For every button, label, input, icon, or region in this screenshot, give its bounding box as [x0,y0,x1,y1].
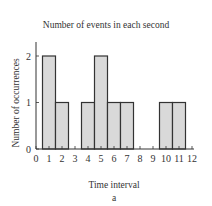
bar-6 [108,103,121,150]
bar-10 [160,103,173,150]
y-tick-label: 2 [26,51,31,62]
x-tick-label: 3 [73,153,78,164]
x-tick-label: 0 [34,153,39,164]
x-tick-label: 11 [174,153,184,164]
bar-2 [56,103,69,150]
x-tick-label: 12 [187,153,197,164]
y-tick-label: 0 [26,144,31,155]
x-tick-label: 6 [112,153,117,164]
x-tick-label: 1 [47,153,52,164]
bar-chart-plot: 0123456789101112012 [0,0,212,206]
x-tick-label: 10 [161,153,171,164]
bar-1 [43,56,56,149]
x-tick-label: 2 [60,153,65,164]
bar-5 [95,56,108,149]
x-tick-label: 5 [99,153,104,164]
bar-4 [82,103,95,150]
x-tick-label: 8 [138,153,143,164]
bars-group [43,56,186,149]
x-tick-label: 9 [151,153,156,164]
x-tick-label: 4 [86,153,91,164]
y-tick-label: 1 [26,97,31,108]
bar-7 [121,103,134,150]
bar-11 [173,103,186,150]
x-tick-label: 7 [125,153,130,164]
